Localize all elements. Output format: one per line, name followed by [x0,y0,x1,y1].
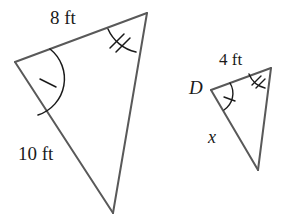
small-triangle [211,68,271,170]
geometry-canvas [0,0,281,223]
small-triangle-top-side-label: 4 ft [219,51,242,68]
small-triangle-d-angle-arc [224,83,233,110]
large-triangle-top-side-label: 8 ft [50,8,76,27]
small-triangle-d-angle-single-tick [224,97,235,101]
large-triangle-apex-angle-arc [108,29,136,52]
small-triangle-vertex-d-label: D [189,78,203,97]
large-triangle [15,13,147,213]
large-triangle-left-side-label: 10 ft [18,144,53,163]
small-triangle-left-side-unknown-label: x [208,128,216,146]
large-triangle-top-side [15,13,147,62]
similar-triangles-figure: 8 ft 10 ft D 4 ft x [0,0,281,223]
small-triangle-left-side [211,90,258,170]
large-triangle-left-angle-single-tick [40,79,56,87]
